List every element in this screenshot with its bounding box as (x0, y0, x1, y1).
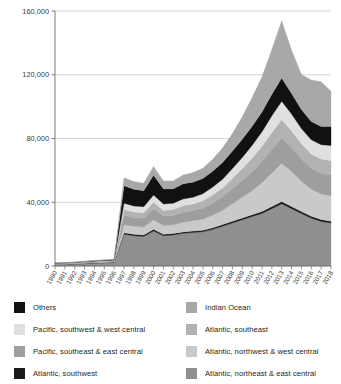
legend-item[interactable]: Pacific, southeast & east central (14, 340, 174, 362)
chart-svg: 040,00080,000120,000160,000 199019911992… (0, 0, 341, 300)
legend-item[interactable]: Atlantic, northeast & east central (186, 362, 341, 384)
legend-swatch-icon (14, 368, 25, 379)
legend-item-label: Pacific, southwest & west central (33, 325, 145, 334)
y-axis-tick-label: 0 (45, 262, 49, 271)
x-axis-ticks: 1990199119921993199419951996199719981999… (45, 266, 334, 285)
legend-swatch-icon (14, 346, 25, 357)
legend-item-label: Pacific, southeast & east central (33, 347, 143, 356)
legend-item-label: Atlantic, southeast (205, 325, 268, 334)
legend-column-right: Indian OceanAtlantic, southeastAtlantic,… (186, 296, 341, 384)
y-axis-tick-label: 160,000 (22, 7, 49, 16)
legend-item-label: Indian Ocean (205, 303, 251, 312)
legend-swatch-icon (186, 324, 197, 335)
legend-item[interactable]: Atlantic, northwest & west central (186, 340, 341, 362)
legend-swatch-icon (186, 368, 197, 379)
legend-swatch-icon (186, 346, 197, 357)
y-axis-tick-label: 80,000 (26, 134, 49, 143)
y-axis-tick-label: 120,000 (22, 70, 49, 79)
legend-item-label: Atlantic, northeast & east central (205, 369, 316, 378)
stacked-area-chart: 040,00080,000120,000160,000 199019911992… (0, 0, 341, 384)
chart-legend: OthersPacific, southwest & west centralP… (0, 296, 341, 384)
legend-item-label: Atlantic, southwest (33, 369, 97, 378)
legend-item[interactable]: Pacific, southwest & west central (14, 318, 174, 340)
legend-swatch-icon (14, 324, 25, 335)
legend-item[interactable]: Atlantic, southwest (14, 362, 174, 384)
legend-item[interactable]: Atlantic, southeast (186, 318, 341, 340)
legend-item-label: Others (33, 303, 56, 312)
legend-swatch-icon (186, 302, 197, 313)
x-axis-tick-label: 2018 (321, 269, 334, 285)
y-axis-tick-label: 40,000 (26, 198, 49, 207)
area-series-group (55, 21, 331, 266)
legend-swatch-icon (14, 302, 25, 313)
legend-item-label: Atlantic, northwest & west central (205, 347, 319, 356)
legend-column-left: OthersPacific, southwest & west centralP… (14, 296, 174, 384)
legend-item[interactable]: Indian Ocean (186, 296, 341, 318)
plot-area: 040,00080,000120,000160,000 199019911992… (0, 0, 341, 300)
y-axis-ticks: 040,00080,000120,000160,000 (22, 7, 55, 271)
legend-item[interactable]: Others (14, 296, 174, 318)
